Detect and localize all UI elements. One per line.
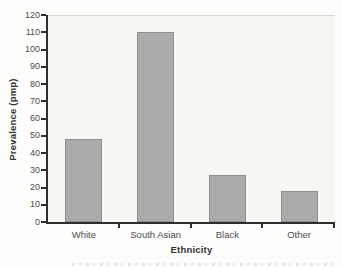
y-tick (41, 100, 46, 102)
y-axis-line (46, 15, 48, 224)
y-tick (41, 118, 46, 120)
y-tick (41, 83, 46, 85)
x-tick-label-black: Black (192, 229, 264, 240)
x-tick-label-other: Other (263, 229, 335, 240)
y-tick (41, 187, 46, 189)
x-tick (261, 224, 263, 228)
y-tick (41, 204, 46, 206)
bar-white (65, 139, 102, 222)
x-tick (118, 224, 120, 228)
y-tick (41, 152, 46, 154)
y-tick-label: 110 (13, 27, 40, 38)
cropped-caption-remnant (72, 263, 335, 266)
bar-south-asian (137, 32, 174, 222)
bar-chart-figure: 0102030405060708090100110120WhiteSouth A… (0, 0, 342, 268)
y-tick (41, 221, 46, 223)
y-tick-label: 10 (13, 199, 40, 210)
x-tick-label-white: White (48, 229, 120, 240)
y-tick-label: 120 (13, 10, 40, 21)
y-tick (41, 66, 46, 68)
y-axis-title: Prevalence (pmp) (7, 67, 20, 172)
bar-other (281, 191, 318, 222)
plot-top-border (48, 15, 335, 16)
plot-area: 0102030405060708090100110120WhiteSouth A… (0, 0, 342, 268)
x-tick (333, 224, 335, 228)
y-tick-label: 20 (13, 182, 40, 193)
x-tick (190, 224, 192, 228)
y-tick (41, 135, 46, 137)
bar-black (209, 175, 246, 222)
y-tick-label: 0 (13, 217, 40, 228)
x-axis-title: Ethnicity (48, 244, 335, 255)
y-tick (41, 31, 46, 33)
y-tick (41, 49, 46, 51)
y-tick-label: 100 (13, 44, 40, 55)
y-tick (41, 14, 46, 16)
y-tick (41, 169, 46, 171)
x-tick-label-south-asian: South Asian (120, 229, 192, 240)
